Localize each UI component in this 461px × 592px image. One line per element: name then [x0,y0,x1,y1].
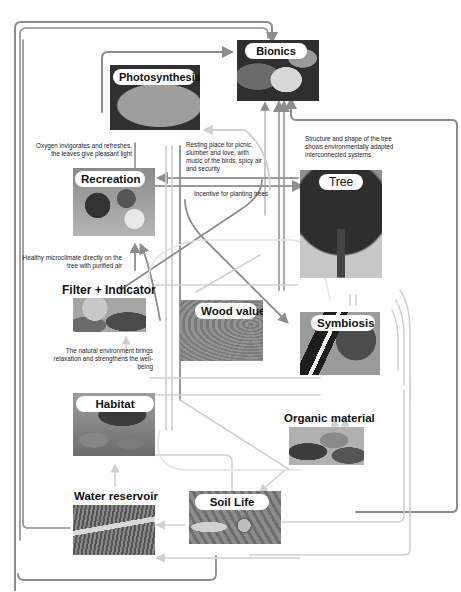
filter-indicator-image [73,298,146,332]
node-bionics: Bionics [237,40,319,101]
wood-value-label: Wood value [195,303,257,319]
recreation-label: Recreation [75,171,145,187]
annotation-structure: Structure and shape of the tree shows en… [305,135,405,159]
node-wood-value: Wood value [180,300,263,361]
node-habitat: Habitat [73,393,155,456]
annotation-oxygen: Oxygen invigorates and refreshes, the le… [26,142,132,158]
bionics-label: Bionics [245,43,307,59]
organic-material-title: Organic material [284,412,375,424]
node-filter-indicator [73,298,146,332]
filter-indicator-title: Filter + Indicator [62,283,156,297]
water-reservoir-title: Water reservoir [74,490,158,502]
annotation-resting: Resting place for picnic, slumber and lo… [186,141,266,173]
annotation-natural-environment: The natural environment brings relaxatio… [46,347,153,371]
photosynthesis-label: Photosynthesis [113,69,195,85]
soil-life-label: Soil Life [195,494,269,510]
node-photosynthesis: Photosynthesis [110,65,200,130]
node-tree: Tree [300,170,382,278]
annotation-incentive: Incentive for planting trees [192,190,270,198]
tree-label: Tree [319,174,363,190]
organic-material-image [289,427,364,465]
node-organic-material [289,427,364,465]
water-reservoir-image [73,505,155,555]
node-symbiosis: Symbiosis [300,312,380,375]
symbiosis-label: Symbiosis [311,315,375,331]
annotation-microclimate: Healthy microclimate directly on the tre… [22,254,122,270]
node-water-reservoir [73,505,155,555]
node-recreation: Recreation [73,168,155,236]
ecosystem-diagram: Bionics Photosynthesis Recreation Tree F… [0,0,461,592]
habitat-label: Habitat [76,396,154,412]
node-soil-life: Soil Life [189,491,281,544]
